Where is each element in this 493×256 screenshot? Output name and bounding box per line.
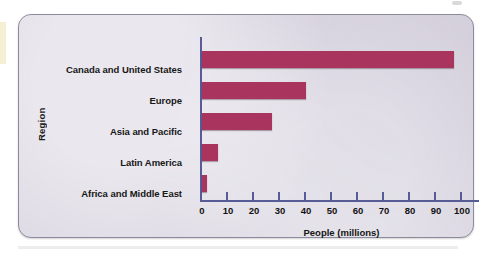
x-axis-tick (304, 192, 306, 201)
plot-area: 0102030405060708090100 (200, 37, 483, 202)
bar (202, 82, 306, 99)
x-axis-title: People (millions) (200, 227, 483, 238)
x-axis-tick (356, 192, 358, 201)
category-label: Europe (150, 92, 182, 109)
bar (202, 51, 454, 68)
x-axis-tick (408, 192, 410, 201)
category-label: Asia and Pacific (110, 123, 182, 140)
category-label: Latin America (120, 154, 182, 171)
x-axis-tick (434, 192, 436, 201)
x-axis-tick (382, 192, 384, 201)
x-axis-line (200, 200, 479, 202)
x-axis-tick (226, 192, 228, 201)
bar (202, 144, 218, 161)
category-label: Canada and United States (66, 61, 182, 78)
category-axis-labels: Canada and United StatesEuropeAsia and P… (45, 39, 182, 197)
x-axis-tick (252, 192, 254, 201)
scan-artifact-bottom-edge (18, 246, 458, 249)
x-axis-tick-label: 100 (447, 205, 477, 216)
bar (202, 113, 272, 130)
x-axis-tick (330, 192, 332, 201)
x-axis-tick (460, 192, 462, 201)
bar (202, 175, 207, 192)
scan-artifact-top-right (452, 1, 462, 5)
scan-artifact-left (0, 22, 6, 64)
category-label: Africa and Middle East (81, 185, 182, 202)
x-axis-tick (278, 192, 280, 201)
chart-panel: Region Canada and United StatesEuropeAsi… (18, 14, 474, 238)
